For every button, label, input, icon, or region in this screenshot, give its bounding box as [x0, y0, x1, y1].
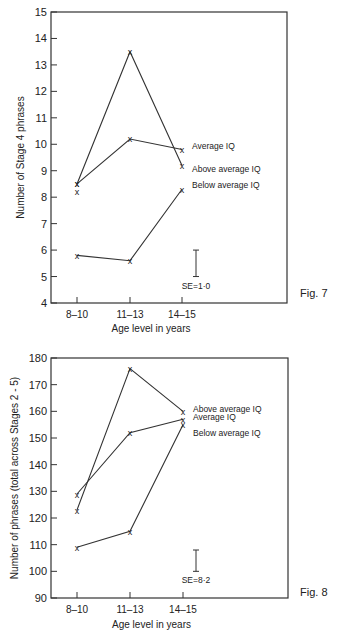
series-label: Below average IQ	[193, 428, 261, 438]
series-label: Above average IQ	[192, 164, 261, 174]
series-label: Below average IQ	[192, 180, 260, 190]
figure-label: Fig. 7	[300, 287, 328, 299]
x-axis-label: Age level in years	[112, 619, 191, 630]
y-tick-label: 170	[29, 379, 47, 391]
series-label: Average IQ	[193, 412, 236, 422]
x-tick-label: 14–15	[169, 604, 197, 615]
data-point-marker: x	[128, 134, 133, 144]
data-point-marker: x	[180, 145, 185, 155]
y-tick-label: 12	[35, 85, 47, 97]
chart-2: 901001101201301401501601701808–1011–1314…	[9, 352, 328, 630]
data-point-marker: x	[128, 364, 133, 374]
x-tick-label: 8–10	[66, 604, 89, 615]
y-tick-label: 150	[29, 432, 47, 444]
data-point-marker: x	[180, 161, 185, 171]
y-tick-label: 8	[41, 191, 47, 203]
x-tick-label: 11–13	[116, 604, 144, 615]
data-point-marker: x	[128, 527, 133, 537]
y-tick-label: 120	[29, 512, 47, 524]
y-tick-label: 7	[41, 218, 47, 230]
figure-canvas: 4567891011121314158–1011–1314–15Age leve…	[0, 0, 338, 636]
y-tick-label: 100	[29, 565, 47, 577]
data-point-marker: x	[75, 187, 80, 197]
data-point-marker: x	[181, 420, 186, 430]
data-point-marker: x	[75, 543, 80, 553]
y-tick-label: 13	[35, 59, 47, 71]
y-tick-label: 90	[35, 592, 47, 604]
y-axis-label: Number of Stage 4 phrases	[15, 96, 26, 218]
data-point-marker: x	[128, 256, 133, 266]
y-tick-label: 130	[29, 485, 47, 497]
y-tick-label: 9	[41, 165, 47, 177]
data-point-marker: x	[128, 428, 133, 438]
plot-frame	[51, 358, 288, 598]
series-line	[77, 369, 183, 510]
data-point-marker: x	[180, 185, 185, 195]
data-point-marker: x	[75, 251, 80, 261]
y-tick-label: 14	[35, 32, 47, 44]
y-tick-label: 5	[41, 271, 47, 283]
data-point-marker: x	[75, 506, 80, 516]
x-tick-label: 8–10	[66, 309, 89, 320]
y-tick-label: 110	[29, 539, 47, 551]
series-line	[77, 52, 182, 184]
y-tick-label: 6	[41, 244, 47, 256]
x-tick-label: 14–15	[168, 309, 196, 320]
y-tick-label: 180	[29, 352, 47, 364]
figure-label: Fig. 8	[300, 586, 328, 598]
y-tick-label: 11	[36, 112, 47, 124]
y-tick-label: 160	[29, 405, 47, 417]
y-tick-label: 15	[35, 6, 47, 18]
y-tick-label: 10	[35, 138, 47, 150]
chart-1: 4567891011121314158–1011–1314–15Age leve…	[15, 6, 328, 334]
series-line	[77, 189, 182, 260]
x-tick-label: 11–13	[116, 309, 144, 320]
series-label: Average IQ	[192, 141, 235, 151]
y-tick-label: 140	[29, 459, 47, 471]
se-annotation: SE=8·2	[182, 575, 211, 585]
plot-frame	[51, 12, 287, 303]
y-axis-label: Number of phrases (total across Stages 2…	[9, 377, 20, 579]
se-annotation: SE=1·0	[182, 281, 211, 291]
x-axis-label: Age level in years	[112, 323, 191, 334]
data-point-marker: x	[75, 490, 80, 500]
data-point-marker: x	[128, 47, 133, 57]
y-tick-label: 4	[41, 297, 47, 309]
